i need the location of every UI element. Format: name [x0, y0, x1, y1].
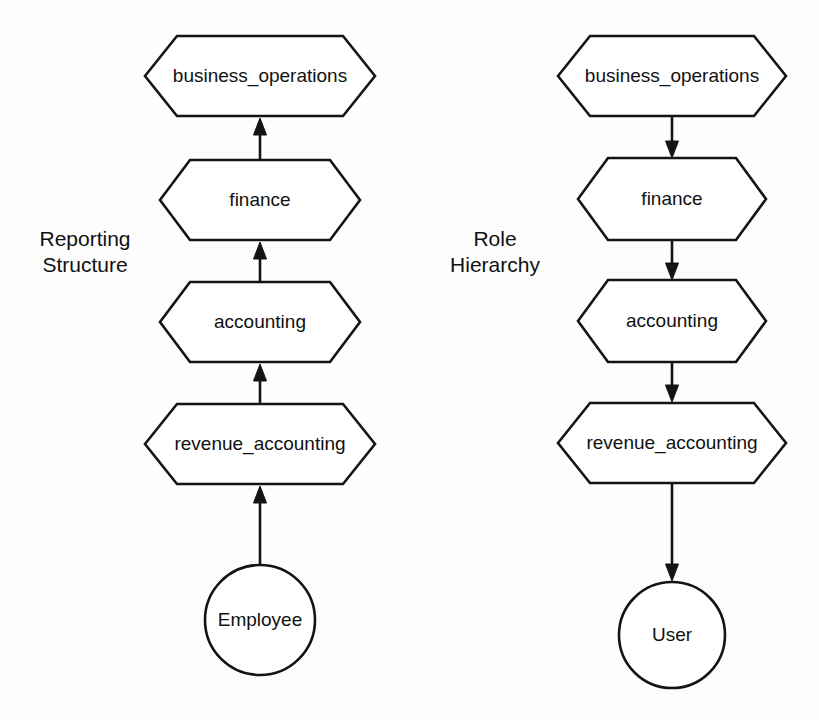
node-label: revenue_accounting: [586, 432, 757, 454]
edge-arrowhead-down-icon: [666, 263, 679, 280]
node-right-accounting[interactable]: accounting: [578, 280, 766, 362]
diagram-panel-reporting-structure: ReportingStructurebusiness_operationsfin…: [39, 36, 375, 675]
edge-left-edge-employee-to-revenue: [254, 486, 267, 565]
node-label: User: [652, 624, 693, 645]
diagram-root: ReportingStructurebusiness_operationsfin…: [0, 0, 819, 720]
node-label: accounting: [626, 310, 718, 331]
node-label: finance: [641, 188, 702, 209]
diagram-canvas: ReportingStructurebusiness_operationsfin…: [0, 0, 819, 720]
edge-arrowhead-down-icon: [666, 564, 679, 581]
node-left-business-operations[interactable]: business_operations: [145, 36, 375, 116]
edge-left-edge-revenue-to-accounting: [254, 364, 267, 404]
node-right-revenue-accounting[interactable]: revenue_accounting: [558, 403, 786, 483]
node-label: revenue_accounting: [174, 433, 345, 455]
panel-caption-line-2: Structure: [42, 253, 127, 276]
panel-caption-role-hierarchy: RoleHierarchy: [450, 227, 540, 276]
panel-caption-reporting-structure: ReportingStructure: [39, 227, 130, 276]
edge-arrowhead-up-icon: [254, 242, 267, 259]
edge-arrowhead-down-icon: [666, 141, 679, 158]
edge-arrowhead-up-icon: [254, 486, 267, 503]
edge-arrowhead-up-icon: [254, 364, 267, 381]
node-label: business_operations: [173, 65, 347, 87]
edge-left-edge-accounting-to-finance: [254, 242, 267, 282]
node-left-finance[interactable]: finance: [160, 160, 360, 240]
node-label: Employee: [218, 609, 303, 630]
panel-caption-line-1: Reporting: [39, 227, 130, 250]
node-label: accounting: [214, 311, 306, 332]
edge-arrowhead-up-icon: [254, 118, 267, 135]
node-right-user[interactable]: User: [619, 582, 725, 688]
node-label: finance: [229, 189, 290, 210]
node-right-business-operations[interactable]: business_operations: [558, 36, 786, 116]
node-left-accounting[interactable]: accounting: [160, 282, 360, 362]
edge-arrowhead-down-icon: [666, 385, 679, 402]
edge-right-edge-revenue-to-user: [666, 484, 679, 581]
diagram-panel-role-hierarchy: RoleHierarchybusiness_operationsfinancea…: [450, 36, 786, 688]
edge-right-edge-accounting-to-revenue: [666, 362, 679, 402]
node-right-finance[interactable]: finance: [578, 158, 766, 240]
node-left-employee[interactable]: Employee: [205, 565, 315, 675]
node-left-revenue-accounting[interactable]: revenue_accounting: [145, 404, 375, 484]
panel-caption-line-1: Role: [473, 227, 516, 250]
panel-caption-line-2: Hierarchy: [450, 253, 540, 276]
node-label: business_operations: [585, 65, 759, 87]
edge-right-edge-business-operations-to-finance: [666, 117, 679, 158]
edge-right-edge-finance-to-accounting: [666, 240, 679, 280]
edge-left-edge-finance-to-business-operations: [254, 118, 267, 160]
